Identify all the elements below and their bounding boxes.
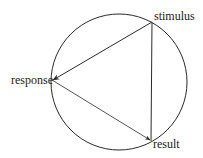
edge-stimulus-to-response — [53, 22, 152, 80]
node-label-response: response — [11, 74, 53, 86]
edge-stimulus-to-result — [151, 22, 152, 141]
stimulus-response-diagram: stimulus response result — [0, 0, 203, 158]
edge-response-to-result — [52, 80, 150, 140]
cycle-circle — [51, 14, 187, 150]
node-label-result: result — [153, 138, 180, 150]
node-label-stimulus: stimulus — [154, 10, 195, 22]
